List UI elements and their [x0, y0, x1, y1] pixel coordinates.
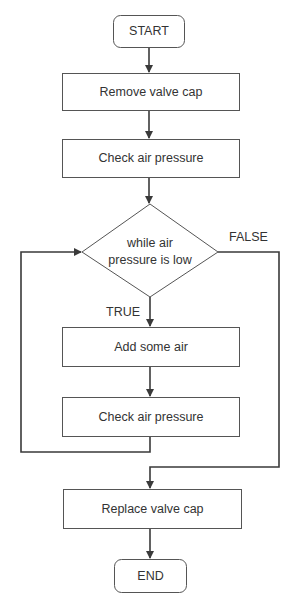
remove-cap-label: Remove valve cap [100, 84, 203, 101]
true-edge-label: TRUE [106, 305, 140, 319]
check-pressure-1-node: Check air pressure [62, 139, 240, 178]
decision-label-line1: while air [127, 235, 173, 252]
start-label: START [129, 23, 169, 40]
edge-decision-false [150, 252, 279, 488]
replace-cap-node: Replace valve cap [63, 489, 242, 529]
add-air-label: Add some air [114, 339, 188, 356]
check-pressure-1-label: Check air pressure [99, 150, 204, 167]
remove-cap-node: Remove valve cap [62, 73, 240, 111]
add-air-node: Add some air [62, 327, 240, 367]
check-pressure-2-node: Check air pressure [62, 397, 240, 437]
replace-cap-label: Replace valve cap [101, 501, 203, 518]
check-pressure-2-label: Check air pressure [99, 409, 204, 426]
decision-label-line2: pressure is low [108, 252, 191, 269]
end-label: END [137, 568, 163, 585]
start-node: START [113, 15, 185, 48]
end-node: END [114, 559, 187, 593]
false-edge-label: FALSE [229, 230, 268, 244]
decision-node: while air pressure is low [82, 226, 218, 278]
